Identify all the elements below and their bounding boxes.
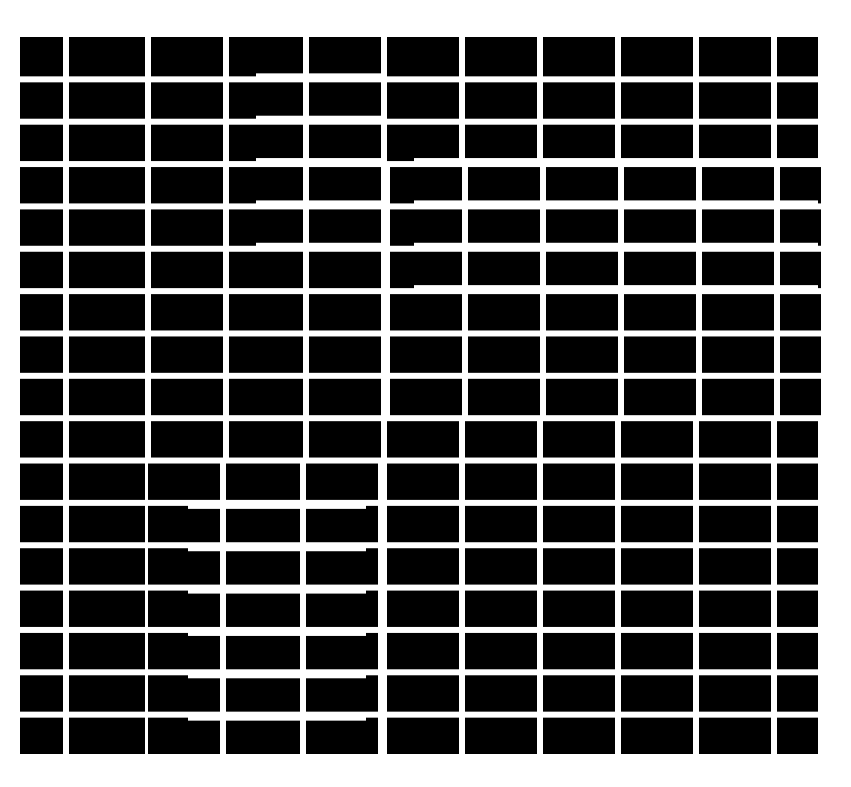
mortar-offset — [414, 200, 818, 206]
tile — [702, 294, 774, 330]
tile — [465, 675, 537, 711]
tile — [465, 548, 537, 584]
tile — [20, 209, 63, 245]
tile — [390, 379, 462, 415]
tile — [148, 591, 220, 627]
tile — [309, 125, 381, 161]
tile — [306, 464, 378, 500]
tile — [69, 675, 145, 711]
tile — [20, 82, 63, 118]
tile — [69, 125, 145, 161]
mortar-offset — [188, 715, 366, 721]
tile — [468, 336, 540, 372]
tile — [543, 633, 615, 669]
tile — [309, 294, 381, 330]
tile — [390, 209, 462, 245]
tile — [621, 633, 693, 669]
tile — [543, 82, 615, 118]
tile — [699, 37, 771, 76]
tile — [468, 252, 540, 288]
tile — [543, 675, 615, 711]
tile — [309, 421, 381, 457]
tile — [229, 125, 303, 161]
tile — [20, 379, 63, 415]
tile — [699, 548, 771, 584]
mortar-offset — [256, 243, 384, 249]
tile — [780, 336, 821, 372]
tile — [621, 82, 693, 118]
tile — [543, 37, 615, 76]
tile — [777, 464, 818, 500]
tile — [543, 125, 615, 161]
tile — [387, 421, 459, 457]
mortar-offset — [414, 158, 818, 164]
tile — [387, 125, 459, 161]
tile — [148, 548, 220, 584]
mortar-offset — [256, 73, 384, 79]
mortar-offset — [188, 503, 366, 509]
tile — [699, 421, 771, 457]
tile — [226, 548, 300, 584]
tile — [621, 548, 693, 584]
tile — [780, 379, 821, 415]
tile — [390, 294, 462, 330]
tile — [621, 718, 693, 754]
tile — [69, 591, 145, 627]
tile — [543, 548, 615, 584]
tile — [390, 252, 462, 288]
tile — [624, 209, 696, 245]
tile — [546, 252, 618, 288]
tile — [69, 633, 145, 669]
tile — [151, 294, 223, 330]
tile — [702, 336, 774, 372]
tile — [777, 506, 818, 542]
tile — [151, 82, 223, 118]
tile — [699, 125, 771, 161]
tile — [777, 421, 818, 457]
mortar-offset — [188, 672, 366, 678]
tile — [151, 379, 223, 415]
tile — [624, 252, 696, 288]
tile — [777, 82, 818, 118]
tile — [306, 633, 378, 669]
tile — [20, 464, 63, 500]
tile — [702, 209, 774, 245]
tile — [465, 37, 537, 76]
tile — [546, 209, 618, 245]
tile — [309, 379, 381, 415]
tile — [148, 633, 220, 669]
tile — [20, 675, 63, 711]
tile — [699, 506, 771, 542]
tile — [780, 209, 821, 245]
tile — [387, 506, 459, 542]
tile — [468, 209, 540, 245]
tile — [621, 37, 693, 76]
tile — [151, 125, 223, 161]
tile — [465, 82, 537, 118]
tile — [69, 82, 145, 118]
tile — [226, 718, 300, 754]
tile — [543, 718, 615, 754]
tile — [306, 591, 378, 627]
mortar-offset — [188, 545, 366, 551]
tile — [621, 464, 693, 500]
tile — [777, 548, 818, 584]
tile — [387, 633, 459, 669]
tile — [543, 591, 615, 627]
tile — [309, 209, 381, 245]
tile — [702, 167, 774, 203]
tile — [699, 675, 771, 711]
tile — [151, 421, 223, 457]
tile — [20, 633, 63, 669]
tile — [229, 167, 303, 203]
tile — [148, 718, 220, 754]
tile — [621, 506, 693, 542]
tile — [387, 718, 459, 754]
tile — [306, 675, 378, 711]
mortar-offset — [188, 757, 366, 763]
tile — [69, 209, 145, 245]
tile — [69, 336, 145, 372]
tile — [229, 421, 303, 457]
tile — [543, 506, 615, 542]
tile — [387, 82, 459, 118]
